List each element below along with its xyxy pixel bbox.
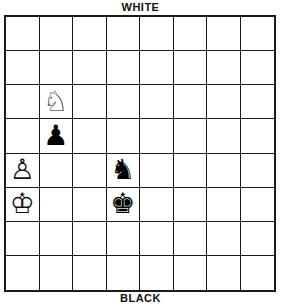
board-square [207,256,241,290]
black-pawn-icon: ♟ [43,122,68,150]
white-king-icon: ♔ [10,190,35,218]
board-square [174,17,208,51]
board-square [241,154,275,188]
board-square [207,188,241,222]
board-square [174,51,208,85]
board-square [73,85,107,119]
board-square [174,154,208,188]
board-square [241,188,275,222]
board-square [73,154,107,188]
board-square [207,51,241,85]
board-square [174,188,208,222]
board-square [140,119,174,153]
board-square [73,222,107,256]
board-square [107,51,141,85]
black-king-icon: ♚ [110,190,135,218]
board-square [6,222,40,256]
board-square [73,188,107,222]
board-square [241,256,275,290]
board-square: ♙ [6,154,40,188]
board-square [174,256,208,290]
board-square [241,222,275,256]
board-square [107,85,141,119]
black-knight-icon: ♞ [110,156,135,184]
board-square [73,17,107,51]
board-square: ♘ [40,85,74,119]
board-square [140,51,174,85]
board-square [207,154,241,188]
board-square [107,222,141,256]
board-square [107,17,141,51]
board-square [174,119,208,153]
board-square [107,119,141,153]
board-square: ♞ [107,154,141,188]
board-square [207,222,241,256]
board-square: ♚ [107,188,141,222]
board-square [73,119,107,153]
board-square [140,17,174,51]
board-square [40,188,74,222]
board-square [174,85,208,119]
chess-board: ♘♟♙♞♔♚ [4,15,276,292]
board-square [6,119,40,153]
board-square [241,17,275,51]
board-square [6,17,40,51]
board-square [6,256,40,290]
board-square [107,256,141,290]
board-square: ♟ [40,119,74,153]
board-square: ♔ [6,188,40,222]
board-square [241,119,275,153]
board-square [40,256,74,290]
board-square [73,256,107,290]
board-square [6,51,40,85]
board-square [241,51,275,85]
board-square [40,51,74,85]
board-square [140,222,174,256]
board-square [40,222,74,256]
board-square [140,256,174,290]
board-square [140,154,174,188]
board-square [40,17,74,51]
board-square [207,17,241,51]
board-square [6,85,40,119]
board-square [140,85,174,119]
board-square [73,51,107,85]
board-square [207,85,241,119]
board-square [174,222,208,256]
board-square [241,85,275,119]
white-knight-icon: ♘ [43,88,68,116]
white-side-label: WHITE [0,1,281,13]
board-square [207,119,241,153]
black-side-label: BLACK [0,292,281,304]
white-pawn-icon: ♙ [10,156,35,184]
board-square [140,188,174,222]
board-square [40,154,74,188]
